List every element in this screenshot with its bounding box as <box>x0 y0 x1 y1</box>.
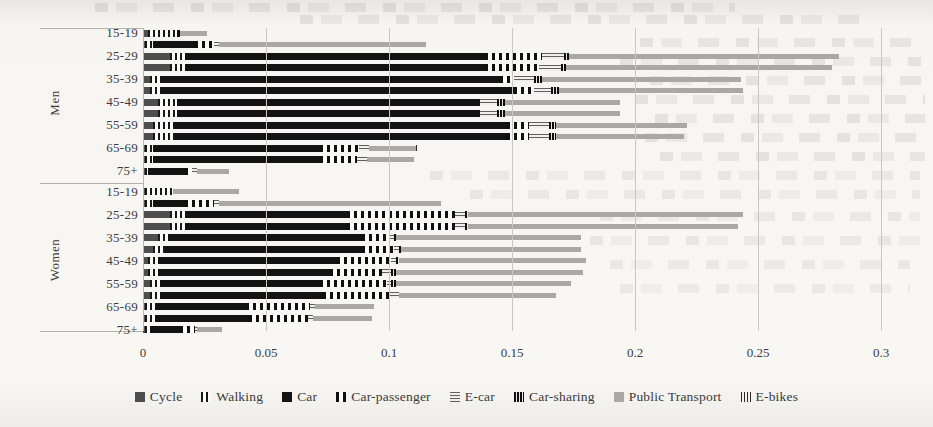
bar-segment-publictransport <box>566 65 832 70</box>
age-label: 55-59 <box>68 278 138 290</box>
bar-segment-ecar <box>359 145 369 151</box>
bar-segment-publictransport <box>399 258 586 263</box>
bar-segment-carpassenger <box>185 168 192 175</box>
bar-segment-walking <box>148 257 158 264</box>
bar-segment-car <box>160 292 322 299</box>
legend-item-carsharing: Car-sharing <box>514 389 595 405</box>
bar-segment-ecar <box>542 53 564 59</box>
bar-segment-cycle <box>143 76 150 83</box>
bar-segment-publictransport <box>505 100 621 105</box>
bar-segment-car <box>160 87 514 94</box>
bar-segment-carsharing <box>497 99 504 106</box>
bar-segment-ecar <box>455 212 465 218</box>
bar-segment-ecar <box>480 99 497 105</box>
bar-segment-car <box>155 303 246 310</box>
bar-segment-carpassenger <box>507 133 529 140</box>
gridline <box>389 28 390 331</box>
bar-segment-car <box>160 76 499 83</box>
bar-segment-walking <box>170 223 185 230</box>
bar-segment-carpassenger <box>485 53 542 60</box>
bar-segment-walking <box>153 122 175 129</box>
bar-segment-walking <box>153 133 175 140</box>
bar-segment-publictransport <box>468 224 739 229</box>
bar-segment-publictransport <box>197 327 222 332</box>
bar-segment-publictransport <box>556 134 684 139</box>
x-tick-label: 0.25 <box>728 345 788 361</box>
legend-item-carpassenger: Car-passenger <box>336 389 431 405</box>
bar-segment-publictransport <box>180 31 207 36</box>
bar-segment-walking <box>145 200 152 207</box>
bar-segment-car <box>175 122 507 129</box>
bar-segment-publictransport <box>401 247 581 252</box>
bar-segment-carpassenger <box>246 303 310 310</box>
bar-segment-carpassenger <box>323 292 389 299</box>
bar-segment-car <box>185 64 485 71</box>
age-label: 55-59 <box>68 119 138 131</box>
legend-item-cycle: Cycle <box>135 389 183 405</box>
bar-segment-ecar <box>514 76 534 82</box>
age-label: 45-49 <box>68 255 138 267</box>
bar-segment-carpassenger <box>195 41 215 48</box>
legend-item-car: Car <box>282 389 317 405</box>
bar-segment-walking <box>150 280 160 287</box>
legend-swatch-carpassenger-icon <box>336 392 346 402</box>
chart-legend: CycleWalkingCarCar-passengerE-carCar-sha… <box>0 386 933 408</box>
x-tick-label: 0.05 <box>236 345 296 361</box>
bar-segment-car <box>158 257 338 264</box>
bar-segment-cycle <box>143 53 170 60</box>
legend-label: E-bikes <box>756 389 799 405</box>
bar-segment-publictransport <box>219 201 440 206</box>
bar-segment-cycle <box>143 246 153 253</box>
bar-segment-publictransport <box>396 235 581 240</box>
category-axis-line <box>143 28 144 331</box>
bar-segment-car <box>153 41 195 48</box>
bar-segment-cycle <box>143 211 170 218</box>
bar-segment-car <box>150 326 180 333</box>
legend-label: Public Transport <box>629 389 722 405</box>
bar-segment-publictransport <box>468 212 744 217</box>
bar-segment-cycle <box>143 122 153 129</box>
bar-segment-cycle <box>143 223 170 230</box>
legend-swatch-cycle-icon <box>135 392 145 402</box>
gridline <box>758 28 759 331</box>
bar-segment-carpassenger <box>320 145 359 152</box>
bar-segment-publictransport <box>505 111 621 116</box>
bar-segment-publictransport <box>556 123 686 128</box>
bar-segment-walking <box>145 188 172 195</box>
bar-segment-ecar <box>357 157 367 163</box>
bar-segment-publictransport <box>315 304 374 309</box>
bar-segment-car <box>153 200 185 207</box>
bar-segment-car <box>177 110 477 117</box>
bar-segment-carpassenger <box>249 315 308 322</box>
age-label: 65-69 <box>68 301 138 313</box>
bar-segment-walking <box>158 99 178 106</box>
x-tick-label: 0.2 <box>605 345 665 361</box>
bar-segment-publictransport <box>313 316 372 321</box>
bar-segment-cycle <box>143 87 150 94</box>
bar-segment-car <box>158 269 330 276</box>
age-label: 15-19 <box>68 27 138 39</box>
bar-segment-carpassenger <box>347 223 455 230</box>
bar-segment-carpassenger <box>337 257 391 264</box>
legend-swatch-car-icon <box>282 392 292 402</box>
bar-segment-carsharing <box>551 87 558 94</box>
bar-segment-walking <box>170 53 185 60</box>
bar-segment-walking <box>150 76 160 83</box>
bar-segment-ecar <box>389 292 399 298</box>
bar-segment-walking <box>148 269 158 276</box>
bar-segment-publictransport <box>396 270 583 275</box>
age-label: 75+ <box>68 165 138 177</box>
bar-segment-carpassenger <box>320 156 357 163</box>
bar-segment-carpassenger <box>347 211 455 218</box>
legend-item-ebikes: E-bikes <box>741 389 799 405</box>
bar-segment-cycle <box>143 133 153 140</box>
bar-segment-car <box>165 246 362 253</box>
legend-item-ecar: E-car <box>450 389 495 405</box>
bar-segment-walking <box>145 41 152 48</box>
legend-swatch-ebikes-icon <box>741 392 751 402</box>
x-tick-label: 0.15 <box>482 345 542 361</box>
legend-label: Car-sharing <box>529 389 595 405</box>
bar-segment-cycle <box>143 64 170 71</box>
bar-segment-car <box>153 145 320 152</box>
bar-segment-carsharing <box>549 122 556 129</box>
